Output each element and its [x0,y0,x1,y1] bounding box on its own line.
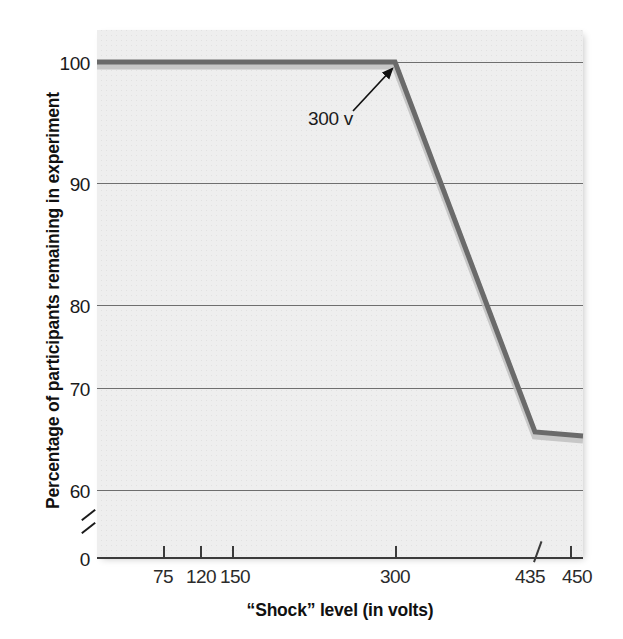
x-tick-label-450: 450 [562,566,592,588]
y-axis-title: Percentage of participants remaining in … [43,41,64,561]
x-axis-title: “Shock” level (in volts) [97,600,583,621]
gridline-100 [97,62,583,63]
x-tick-label-300: 300 [380,566,410,588]
gridline-80 [97,305,583,306]
x-tick-label-150: 150 [220,566,250,588]
gridline-70 [97,388,583,389]
gridline-60 [97,490,583,491]
x-tick-label-120: 120 [186,566,216,588]
x-tick-mark-300 [395,546,397,558]
x-tick-mark-120 [200,546,202,558]
y-axis-break-icon [78,508,104,542]
x-tick-label-435: 435 [515,566,545,588]
gridline-90 [97,183,583,184]
x-tick-mark-75 [163,546,165,558]
x-tick-mark-450 [570,546,572,558]
x-axis-line [97,557,583,559]
chart-figure: 100 90 80 70 60 0 75 120 150 300 435 450… [0,0,623,639]
x-tick-mark-150 [232,546,234,558]
annotation-label-300v: 300 v [308,108,353,130]
x-tick-label-75: 75 [153,566,173,588]
